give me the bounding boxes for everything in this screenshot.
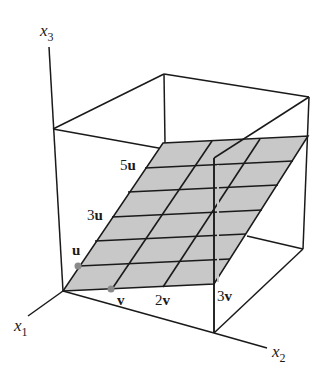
x1-label: x1	[13, 316, 28, 339]
label-u: u	[72, 242, 80, 258]
label-2v: 2v	[155, 292, 171, 308]
label-3v: 3v	[217, 288, 233, 304]
x2-label: x2	[271, 342, 286, 365]
label-v: v	[117, 292, 125, 308]
label-3u: 3u	[87, 207, 103, 223]
label-5u: 5u	[120, 157, 136, 173]
x2-axis	[214, 333, 267, 348]
point-v	[108, 286, 115, 293]
point-u	[75, 263, 82, 270]
diagram-canvas: x3 x1 x2 u 3u 5u v 2v 3v	[0, 0, 321, 375]
x3-axis	[49, 47, 63, 291]
span-plane-diagram: x3 x1 x2 u 3u 5u v 2v 3v	[0, 0, 321, 375]
x1-axis	[28, 291, 63, 316]
x3-label: x3	[39, 21, 54, 44]
